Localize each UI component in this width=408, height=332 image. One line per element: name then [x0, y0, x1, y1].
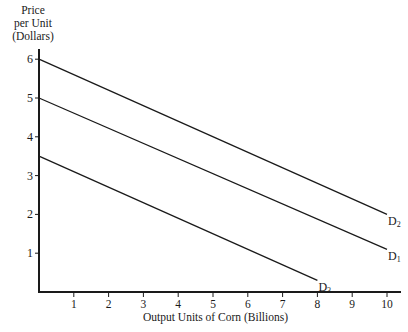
x-tick-label: 3 — [141, 298, 147, 310]
y-tick-label: 4 — [27, 130, 33, 144]
demand-curve-d2 — [39, 59, 387, 214]
curve-label-d1: D1 — [388, 249, 401, 264]
curve-label-d2: D2 — [388, 214, 401, 229]
x-tick-label: 8 — [315, 298, 321, 310]
y-tick-label: 1 — [27, 246, 33, 260]
x-tick-label: 10 — [381, 298, 393, 310]
demand-curve-d3 — [39, 156, 317, 280]
demand-chart: 123456 12345678910 D2D1D3 — [0, 0, 408, 332]
x-tick-label: 1 — [71, 298, 77, 310]
x-tick-label: 6 — [245, 298, 251, 310]
y-ticks: 123456 — [27, 52, 39, 260]
y-tick-label: 6 — [27, 52, 33, 66]
x-tick-label: 4 — [175, 298, 181, 310]
demand-curves: D2D1D3 — [39, 59, 401, 295]
y-tick-label: 2 — [27, 207, 33, 221]
axes — [38, 49, 401, 293]
demand-curve-d1 — [39, 98, 387, 249]
x-tick-label: 9 — [349, 298, 355, 310]
x-tick-label: 7 — [280, 298, 286, 310]
x-axis-label: Output Units of Corn (Billions) — [143, 311, 288, 323]
x-ticks: 12345678910 — [71, 292, 393, 310]
y-tick-label: 5 — [27, 91, 33, 105]
curve-label-d3: D3 — [318, 280, 331, 295]
x-tick-label: 2 — [106, 298, 112, 310]
x-tick-label: 5 — [210, 298, 216, 310]
y-tick-label: 3 — [27, 169, 33, 183]
